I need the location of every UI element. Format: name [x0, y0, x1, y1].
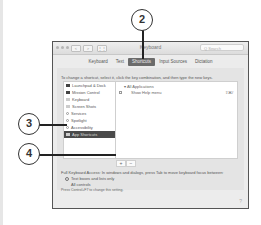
accessibility-icon — [66, 126, 69, 129]
app-shortcuts-icon — [66, 133, 70, 136]
category-mission-control[interactable]: Mission Control — [64, 89, 115, 96]
category-services[interactable]: Services — [64, 110, 115, 117]
tab-keyboard[interactable]: Keyboard — [85, 58, 112, 66]
category-launchpad-dock[interactable]: Launchpad & Dock — [64, 82, 115, 89]
category-accessibility[interactable]: Accessibility — [64, 124, 115, 131]
instructions-text: To change a shortcut, select it, click t… — [61, 75, 213, 80]
callout-2: 2 — [131, 9, 153, 31]
callout-3: 3 — [18, 113, 40, 135]
tab-input-sources[interactable]: Input Sources — [155, 58, 191, 66]
add-shortcut-button[interactable]: + — [116, 160, 126, 167]
launchpad-icon — [66, 84, 70, 87]
tab-bar: Keyboard Text Shortcuts Input Sources Di… — [53, 58, 248, 66]
hint-text: Press Control+F7 to change this setting. — [61, 188, 123, 192]
shortcut-key[interactable]: ⇧⌘/ — [225, 90, 233, 95]
category-spotlight[interactable]: Spotlight — [64, 117, 115, 124]
callout-4-line — [38, 154, 116, 156]
full-keyboard-access-label: Full Keyboard Access: In windows and dia… — [61, 170, 223, 175]
shortcut-label: Show Help menu — [131, 90, 161, 95]
radio-text-boxes[interactable]: Text boxes and lists only — [65, 176, 114, 181]
category-keyboard[interactable]: Keyboard — [64, 96, 115, 103]
radio-button[interactable] — [65, 177, 69, 181]
keyboard-preferences-window: < > ⋮⋮ Keyboard Q Search Keyboard Text S… — [52, 41, 249, 209]
group-all-applications[interactable]: ▾ All Applications — [124, 84, 154, 89]
radio-all-controls[interactable]: All controls — [71, 182, 91, 187]
mission-control-icon — [66, 91, 70, 94]
screenshot-icon — [66, 105, 70, 108]
shortcut-list: ▾ All Applications Show Help menu ⇧⌘/ — [116, 81, 238, 159]
services-icon — [66, 112, 69, 115]
shortcut-checkbox[interactable] — [119, 91, 122, 94]
callout-2-line — [142, 30, 144, 59]
callout-3-line — [38, 124, 67, 126]
category-app-shortcuts[interactable]: App Shortcuts — [64, 131, 115, 138]
add-remove-buttons: + − — [116, 160, 136, 167]
tab-text[interactable]: Text — [112, 58, 128, 66]
remove-shortcut-button[interactable]: − — [126, 160, 136, 167]
callout-4: 4 — [18, 143, 40, 165]
page-edge — [0, 0, 3, 225]
tab-dictation[interactable]: Dictation — [191, 58, 217, 66]
spotlight-icon — [66, 119, 69, 122]
help-button[interactable]: ? — [239, 198, 242, 204]
search-field[interactable]: Q Search — [200, 44, 244, 51]
title-bar: < > ⋮⋮ Keyboard Q Search — [53, 42, 248, 55]
tab-shortcuts[interactable]: Shortcuts — [128, 58, 155, 66]
category-screen-shots[interactable]: Screen Shots — [64, 103, 115, 110]
category-list: Launchpad & Dock Mission Control Keyboar… — [63, 81, 116, 159]
keyboard-icon — [66, 98, 70, 101]
